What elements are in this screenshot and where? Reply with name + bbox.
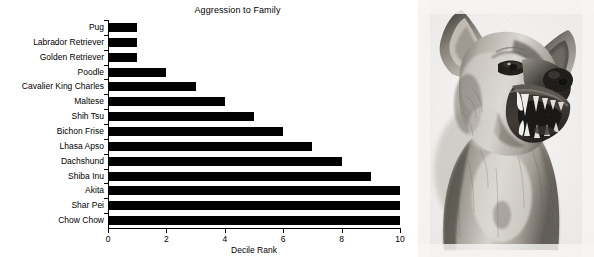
y-axis-tick bbox=[104, 94, 108, 95]
x-axis-tick bbox=[108, 229, 109, 233]
y-axis-tick bbox=[104, 79, 108, 80]
y-axis-label: Chow Chow bbox=[0, 215, 104, 225]
y-axis-label: Pug bbox=[0, 22, 104, 32]
bar bbox=[108, 68, 166, 77]
y-axis-label: Akita bbox=[0, 185, 104, 195]
bar bbox=[108, 186, 400, 195]
bar bbox=[108, 23, 137, 32]
y-axis-tick bbox=[104, 139, 108, 140]
y-axis-tick bbox=[104, 50, 108, 51]
y-axis-label: Shih Tsu bbox=[0, 111, 104, 121]
y-axis-tick bbox=[104, 20, 108, 21]
y-axis-label: Lhasa Apso bbox=[0, 141, 104, 151]
y-axis-tick bbox=[104, 65, 108, 66]
y-axis-label: Shar Pei bbox=[0, 200, 104, 210]
y-axis-label: Shiba Inu bbox=[0, 171, 104, 181]
y-axis-tick bbox=[104, 154, 108, 155]
x-axis-tick bbox=[166, 229, 167, 233]
y-axis-tick bbox=[104, 35, 108, 36]
y-axis-tick bbox=[104, 213, 108, 214]
y-axis-label: Golden Retriever bbox=[0, 52, 104, 62]
bar bbox=[108, 127, 283, 136]
figure-root: Aggression to Family PugLabrador Retriev… bbox=[0, 0, 594, 257]
y-axis-label: Bichon Frise bbox=[0, 126, 104, 136]
y-axis-tick bbox=[104, 124, 108, 125]
bar bbox=[108, 216, 400, 225]
x-axis-tick-label: 6 bbox=[281, 234, 286, 244]
bar bbox=[108, 53, 137, 62]
y-axis-label: Cavalier King Charles bbox=[0, 81, 104, 91]
x-axis-line bbox=[108, 228, 401, 229]
dog-photo-panel bbox=[418, 0, 594, 257]
bar bbox=[108, 112, 254, 121]
y-axis-tick bbox=[104, 183, 108, 184]
bar bbox=[108, 82, 196, 91]
bar bbox=[108, 142, 312, 151]
bar-chart-panel: Aggression to Family PugLabrador Retriev… bbox=[0, 0, 415, 257]
y-axis-tick bbox=[104, 169, 108, 170]
snarling-dog-image bbox=[418, 0, 594, 257]
x-axis-tick bbox=[283, 229, 284, 233]
x-axis-tick bbox=[342, 229, 343, 233]
y-axis-tick bbox=[104, 109, 108, 110]
y-axis-label: Dachshund bbox=[0, 156, 104, 166]
x-axis-tick-label: 8 bbox=[339, 234, 344, 244]
chart-title: Aggression to Family bbox=[0, 5, 415, 15]
x-axis-tick-label: 4 bbox=[222, 234, 227, 244]
y-axis-tick bbox=[104, 198, 108, 199]
x-axis-tick bbox=[225, 229, 226, 233]
y-axis-label: Poodle bbox=[0, 67, 104, 77]
plot-area bbox=[108, 20, 400, 228]
bar bbox=[108, 201, 400, 210]
x-axis-title: Decile Rank bbox=[108, 245, 400, 255]
bar bbox=[108, 97, 225, 106]
bar bbox=[108, 38, 137, 47]
x-axis-tick-label: 0 bbox=[106, 234, 111, 244]
x-axis-tick-label: 2 bbox=[164, 234, 169, 244]
bar bbox=[108, 172, 371, 181]
bar bbox=[108, 157, 342, 166]
y-axis-label: Labrador Retriever bbox=[0, 37, 104, 47]
x-axis-tick bbox=[400, 229, 401, 233]
x-axis-tick-label: 10 bbox=[395, 234, 404, 244]
y-axis-label: Maltese bbox=[0, 96, 104, 106]
